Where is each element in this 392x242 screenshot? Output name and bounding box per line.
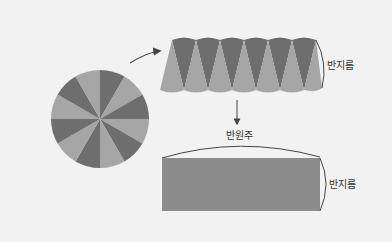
rearranged-sector-strip (160, 38, 324, 93)
sector-circle (51, 70, 149, 168)
half-circumference-label: 반원주 (226, 130, 253, 141)
circle-area-diagram: 반지름 반원주 반지름 (0, 0, 392, 242)
rectangle-radius-arc (320, 158, 326, 211)
curved-arrow-icon (130, 51, 160, 63)
diagram-panel: 반지름 반원주 반지름 (0, 0, 392, 242)
half-circumference-arc (162, 146, 320, 158)
rectangle-radius-label: 반지름 (329, 179, 356, 190)
strip-radius-label: 반지름 (327, 60, 354, 71)
result-rectangle (162, 158, 320, 211)
